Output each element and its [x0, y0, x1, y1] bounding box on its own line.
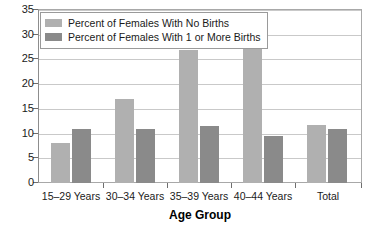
legend-label-no-births: Percent of Females With No Births	[68, 18, 229, 29]
x-axis-label-40-44-years: 40–44 Years	[231, 191, 295, 202]
bar-group	[299, 10, 361, 183]
bar-chart: 35 30 25 20 15 10 5 0 15–29 Yea	[0, 0, 370, 232]
y-axis-tick-label: 25	[6, 53, 34, 64]
bar-no-births	[307, 125, 326, 183]
y-axis-tick-label: 10	[6, 128, 34, 139]
bar-one-or-more-births	[328, 129, 347, 183]
x-axis-title: Age Group	[38, 209, 362, 221]
bar-one-or-more-births	[200, 126, 219, 183]
bar-no-births	[243, 32, 262, 183]
legend-item-no-births: Percent of Females With No Births	[45, 16, 261, 30]
bar-one-or-more-births	[264, 136, 283, 183]
x-axis-label-15-29-years: 15–29 Years	[39, 191, 103, 202]
bar-no-births	[179, 50, 198, 183]
legend-swatch-light-icon	[45, 19, 62, 27]
x-axis-tick-mark	[231, 183, 232, 188]
bar-no-births	[51, 143, 70, 183]
x-axis-tick-mark	[361, 183, 362, 188]
legend-swatch-dark-icon	[45, 33, 62, 41]
x-axis-tick-mark	[295, 183, 296, 188]
y-axis-tick-label: 5	[6, 152, 34, 163]
x-axis-tick-mark	[103, 183, 104, 188]
legend-item-one-or-more-births: Percent of Females With 1 or More Births	[45, 30, 261, 44]
x-axis-label-30-34-years: 30–34 Years	[103, 191, 167, 202]
bar-no-births	[115, 99, 134, 183]
bar-one-or-more-births	[136, 129, 155, 183]
y-axis-tick-label: 0	[6, 177, 34, 188]
y-axis-tick-label: 30	[6, 29, 34, 40]
bar-one-or-more-births	[72, 129, 91, 183]
chart-legend: Percent of Females With No Births Percen…	[40, 12, 268, 49]
x-axis-tick-mark	[167, 183, 168, 188]
x-axis-label-total: Total	[295, 191, 361, 202]
y-axis-tick-label: 15	[6, 103, 34, 114]
y-axis-tick-label: 20	[6, 78, 34, 89]
x-axis-label-35-39-years: 35–39 Years	[167, 191, 231, 202]
y-axis-tick-label: 35	[6, 4, 34, 15]
legend-label-one-or-more-births: Percent of Females With 1 or More Births	[68, 32, 261, 43]
